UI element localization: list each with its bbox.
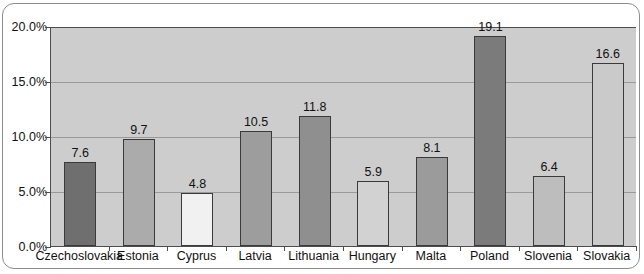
bar-value-label: 6.4 (540, 160, 557, 174)
x-axis-category-label: Estonia (117, 249, 159, 263)
bar[interactable] (123, 139, 155, 246)
bar-value-label: 10.5 (244, 115, 268, 129)
bar[interactable] (416, 157, 448, 246)
x-axis-category-label: Malta (416, 249, 447, 263)
bar-value-label: 11.8 (303, 100, 326, 114)
y-axis-tick-label: 10.0% (11, 130, 47, 144)
x-axis-category-label: Hungary (349, 249, 396, 263)
x-axis-category-label: Cyprus (177, 249, 217, 263)
plot-area: 7.69.74.810.511.85.98.119.16.416.6 (50, 27, 636, 247)
bar-value-label: 8.1 (423, 141, 440, 155)
bar[interactable] (181, 193, 213, 246)
bar-group: 4.8 (168, 27, 227, 246)
bar-value-label: 7.6 (72, 146, 89, 160)
bar-value-label: 19.1 (478, 20, 502, 34)
bar-value-label: 9.7 (130, 123, 147, 137)
x-axis-category-label: Slovakia (583, 249, 630, 263)
bar[interactable] (240, 131, 272, 247)
bar[interactable] (533, 176, 565, 246)
bar[interactable] (64, 162, 96, 246)
bar[interactable] (474, 36, 506, 246)
x-axis-tick-mark (636, 246, 637, 251)
bar-group: 7.6 (51, 27, 110, 246)
x-axis-category-label: Czechoslovakia (36, 249, 124, 263)
bar-group: 6.4 (520, 27, 579, 246)
y-axis-tick-label: 20.0% (11, 20, 47, 34)
y-axis-tick-label: 15.0% (11, 75, 47, 89)
bar[interactable] (592, 63, 624, 246)
x-axis-category-label: Slovenia (524, 249, 572, 263)
x-axis-category-label: Latvia (238, 249, 271, 263)
bar-group: 11.8 (285, 27, 344, 246)
bar-group: 9.7 (110, 27, 169, 246)
chart-frame: 7.69.74.810.511.85.98.119.16.416.6 20.0%… (2, 3, 640, 269)
bar[interactable] (357, 181, 389, 246)
bar-group: 16.6 (578, 27, 637, 246)
x-axis-category-label: Lithuania (288, 249, 339, 263)
x-axis-category-label: Poland (470, 249, 509, 263)
bar-group: 5.9 (344, 27, 403, 246)
bar-value-label: 16.6 (596, 47, 620, 61)
bar-value-label: 5.9 (365, 165, 382, 179)
x-axis: CzechoslovakiaEstoniaCyprusLatviaLithuan… (50, 249, 636, 271)
y-axis-tick-mark (45, 247, 51, 248)
bar-group: 19.1 (461, 27, 520, 246)
bar-value-label: 4.8 (189, 177, 206, 191)
bar[interactable] (299, 116, 331, 246)
bar-group: 8.1 (403, 27, 462, 246)
bar-group: 10.5 (227, 27, 286, 246)
y-axis-tick-label: 5.0% (11, 185, 47, 199)
